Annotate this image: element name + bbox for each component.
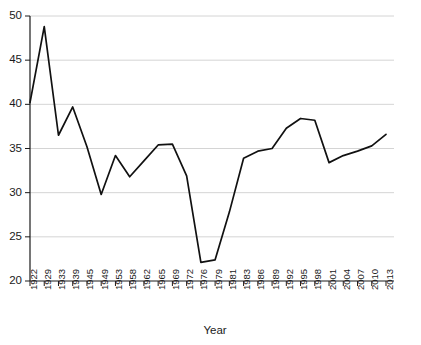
x-axis-title: Year <box>203 324 226 336</box>
x-tick-label: 1989 <box>270 269 281 290</box>
y-tick-label: 20 <box>9 274 22 286</box>
x-tick-label: 1995 <box>298 269 309 290</box>
x-tick-label: 1972 <box>184 269 195 290</box>
x-tick-label: 1965 <box>156 269 167 290</box>
x-tick-label: 1945 <box>84 269 95 290</box>
line-chart: 20253035404550 1922192919331939194519491… <box>0 0 421 345</box>
x-tick-label: 1983 <box>241 269 252 290</box>
x-tick-label: 2004 <box>341 269 352 290</box>
x-tick-label: 2007 <box>355 269 366 290</box>
y-tick-label: 25 <box>9 230 22 242</box>
chart-canvas: 20253035404550 1922192919331939194519491… <box>0 0 421 345</box>
x-tick-label: 1992 <box>284 269 295 290</box>
x-tick-label: 1922 <box>28 269 39 290</box>
x-tick-label: 1998 <box>312 269 323 290</box>
y-tick-label: 45 <box>9 53 22 65</box>
x-tick-label: 1962 <box>141 269 152 290</box>
x-tick-label: 1929 <box>42 269 53 290</box>
x-tick-label: 1949 <box>99 269 110 290</box>
x-tick-label: 1958 <box>127 269 138 290</box>
y-tick-label: 40 <box>9 97 22 109</box>
series-group <box>30 27 386 263</box>
x-tick-label: 1933 <box>56 269 67 290</box>
y-tick-label: 30 <box>9 186 22 198</box>
x-tick-label: 2013 <box>384 269 395 290</box>
x-tick-label: 1976 <box>198 269 209 290</box>
x-tick-label: 1981 <box>227 269 238 290</box>
x-tick-label: 1939 <box>70 269 81 290</box>
x-tick-label: 1979 <box>213 269 224 290</box>
x-tick-label: 2001 <box>327 269 338 290</box>
data-series-line <box>30 27 386 263</box>
x-tick-label: 1986 <box>255 269 266 290</box>
x-tick-label: 2010 <box>369 269 380 290</box>
y-tick-label: 35 <box>9 142 22 154</box>
y-tick-label: 50 <box>9 9 22 21</box>
x-tick-label: 1969 <box>170 269 181 290</box>
x-tick-label: 1953 <box>113 269 124 290</box>
y-axis <box>25 16 30 281</box>
gridlines <box>30 16 394 237</box>
